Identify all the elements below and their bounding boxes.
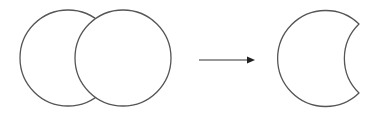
- overlapping-circles: [20, 10, 171, 106]
- diagram-canvas: [0, 0, 375, 115]
- crescent-result: [278, 10, 359, 106]
- arrow-head: [247, 57, 255, 64]
- right-circle: [75, 10, 171, 106]
- arrow: [199, 57, 255, 64]
